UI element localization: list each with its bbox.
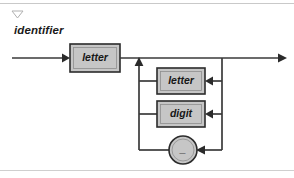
loop-letter-label: letter: [168, 74, 195, 86]
first-letter-label: letter: [82, 51, 109, 63]
node-loop-underscore[interactable]: _: [169, 136, 197, 164]
branch-letter-arrow: [205, 77, 213, 86]
branch-digit-arrow: [205, 110, 213, 119]
loop-digit-label: digit: [170, 107, 193, 119]
syntax-diagram: letter letter digit: [0, 0, 294, 178]
page-canvas: identifier letter letter: [0, 0, 294, 178]
exit-arrow: [278, 54, 287, 63]
node-loop-letter[interactable]: letter: [157, 68, 205, 94]
node-loop-digit[interactable]: digit: [157, 101, 205, 127]
node-first-letter[interactable]: letter: [70, 44, 120, 72]
bottom-divider: [0, 170, 294, 171]
loop-underscore-label: _: [179, 142, 186, 154]
entry-arrow: [62, 54, 70, 63]
